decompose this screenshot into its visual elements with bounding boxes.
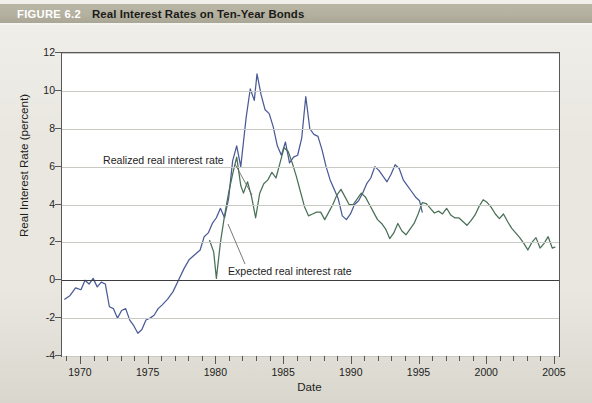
x-tick-minor: [175, 356, 176, 361]
x-tick-minor: [513, 356, 514, 361]
x-tick-minor: [242, 356, 243, 361]
x-tick-minor: [297, 356, 298, 361]
gridline: [62, 129, 559, 130]
x-axis-ticks: 19701975198019851990199520002005: [61, 356, 558, 366]
annotation-expected-label: Expected real interest rate: [228, 265, 352, 277]
x-tick-minor: [432, 356, 433, 361]
x-tick-major: [486, 356, 487, 364]
y-tick-label: 10: [43, 84, 55, 96]
figure-number: FIGURE 6.2: [17, 8, 81, 20]
x-tick-minor: [107, 356, 108, 361]
x-tick-minor: [473, 356, 474, 361]
x-tick-minor: [229, 356, 230, 361]
chart-figure: -4-2024681012 Real Interest Rate (percen…: [0, 28, 592, 403]
x-tick-major: [148, 356, 149, 364]
y-tick-label: -4: [46, 349, 55, 361]
figure-header-band: FIGURE 6.2 Real Interest Rates on Ten-Ye…: [0, 4, 592, 23]
plot-area: [61, 52, 560, 357]
x-tick-major: [80, 356, 81, 364]
x-tick-minor: [94, 356, 95, 361]
x-tick-label: 1975: [136, 366, 159, 378]
gridline: [62, 167, 559, 168]
zero-line: [62, 280, 559, 281]
x-tick-minor: [378, 356, 379, 361]
x-tick-major: [419, 356, 420, 364]
y-tick-label: 12: [43, 46, 55, 58]
gridline: [62, 242, 559, 243]
x-tick-minor: [391, 356, 392, 361]
x-tick-label: 1990: [339, 366, 362, 378]
x-tick-minor: [188, 356, 189, 361]
x-tick-label: 1985: [271, 366, 294, 378]
x-tick-minor: [134, 356, 135, 361]
x-axis-title: Date: [61, 380, 558, 393]
x-tick-minor: [256, 356, 257, 361]
x-tick-major: [351, 356, 352, 364]
x-tick-label: 1970: [68, 366, 91, 378]
x-tick-minor: [324, 356, 325, 361]
x-tick-minor: [161, 356, 162, 361]
x-tick-minor: [66, 356, 67, 361]
x-tick-label: 1980: [204, 366, 227, 378]
x-tick-major: [215, 356, 216, 364]
x-tick-major: [283, 356, 284, 364]
x-tick-minor: [337, 356, 338, 361]
x-tick-label: 2005: [542, 366, 565, 378]
x-tick-minor: [405, 356, 406, 361]
x-tick-minor: [364, 356, 365, 361]
x-tick-minor: [500, 356, 501, 361]
x-tick-minor: [527, 356, 528, 361]
x-tick-minor: [121, 356, 122, 361]
figure-title: Real Interest Rates on Ten-Year Bonds: [92, 8, 304, 20]
x-tick-minor: [446, 356, 447, 361]
x-tick-minor: [540, 356, 541, 361]
x-tick-label: 2000: [475, 366, 498, 378]
x-tick-minor: [270, 356, 271, 361]
x-tick-label: 1995: [407, 366, 430, 378]
gridline: [62, 318, 559, 319]
x-tick-minor: [459, 356, 460, 361]
y-tick-label: -2: [46, 311, 55, 323]
y-axis-title: Real Interest Rate (percent): [17, 46, 30, 286]
x-tick-minor: [202, 356, 203, 361]
x-tick-major: [554, 356, 555, 364]
annotation-realized-label: Realized real interest rate: [103, 154, 224, 166]
gridline: [62, 205, 559, 206]
gridline: [62, 91, 559, 92]
gridline: [62, 53, 559, 54]
x-tick-minor: [310, 356, 311, 361]
